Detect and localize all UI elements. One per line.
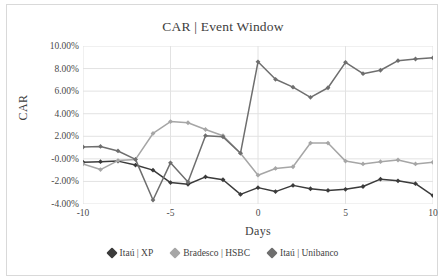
chart-legend: Itaú | XPBradesco | HSBCItaú | Unibanco [7, 248, 439, 258]
legend-marker-icon [170, 247, 181, 258]
data-point-marker[interactable] [308, 186, 313, 191]
legend-marker-icon [106, 247, 117, 258]
y-tick-label: 2.00% [9, 131, 79, 141]
data-point-marker[interactable] [83, 145, 85, 150]
y-axis-tick-labels: 10.00%8.00%6.00%4.00%2.00%-0.00%-2.00%-4… [7, 46, 79, 204]
y-tick-label: 8.00% [9, 64, 79, 74]
y-tick-label: 6.00% [9, 86, 79, 96]
plot-area [83, 46, 433, 204]
legend-item-label: Itaú | XP [120, 248, 154, 258]
data-point-marker[interactable] [273, 189, 278, 194]
data-point-marker[interactable] [273, 166, 278, 171]
y-tick-label: -2.00% [9, 176, 79, 186]
data-point-marker[interactable] [413, 162, 418, 167]
data-point-marker[interactable] [413, 57, 418, 62]
legend-item-label: Bradesco | HSBC [183, 248, 250, 258]
legend-item[interactable]: Itaú | XP [108, 248, 154, 258]
y-tick-label: -4.00% [9, 199, 79, 209]
data-point-marker[interactable] [98, 144, 103, 149]
chart-container: CAR | Event Window CAR 10.00%8.00%6.00%4… [6, 4, 438, 276]
legend-item-label: Itaú | Unibanco [280, 248, 338, 258]
y-tick-label: 4.00% [9, 109, 79, 119]
y-tick-label: -0.00% [9, 154, 79, 164]
data-point-marker[interactable] [186, 120, 191, 125]
data-point-marker[interactable] [396, 178, 401, 183]
x-tick-label: -5 [167, 208, 175, 218]
data-point-marker[interactable] [431, 160, 433, 165]
x-tick-label: 10 [428, 208, 438, 218]
data-point-marker[interactable] [326, 188, 331, 193]
y-tick-label: 10.00% [9, 41, 79, 51]
x-axis-tick-labels: -10-50510 [83, 208, 433, 222]
x-tick-label: 5 [343, 208, 348, 218]
legend-marker-icon [266, 247, 277, 258]
chart-svg [83, 46, 433, 204]
data-point-marker[interactable] [151, 198, 156, 203]
data-point-marker[interactable] [203, 175, 208, 180]
data-point-marker[interactable] [361, 162, 366, 167]
x-tick-label: 0 [256, 208, 261, 218]
x-tick-label: -10 [77, 208, 90, 218]
data-point-marker[interactable] [116, 149, 121, 154]
data-point-marker[interactable] [203, 127, 208, 132]
legend-item[interactable]: Itaú | Unibanco [268, 248, 338, 258]
data-point-marker[interactable] [291, 183, 296, 188]
data-point-marker[interactable] [256, 185, 261, 190]
data-point-marker[interactable] [361, 184, 366, 189]
data-point-marker[interactable] [396, 158, 401, 163]
data-point-marker[interactable] [378, 177, 383, 182]
x-axis-title: Days [83, 224, 433, 239]
data-point-marker[interactable] [343, 187, 348, 192]
chart-title: CAR | Event Window [7, 19, 439, 35]
data-point-marker[interactable] [378, 159, 383, 164]
legend-item[interactable]: Bradesco | HSBC [171, 248, 250, 258]
data-point-marker[interactable] [98, 159, 103, 164]
data-point-marker[interactable] [431, 55, 433, 60]
data-point-marker[interactable] [203, 133, 208, 138]
